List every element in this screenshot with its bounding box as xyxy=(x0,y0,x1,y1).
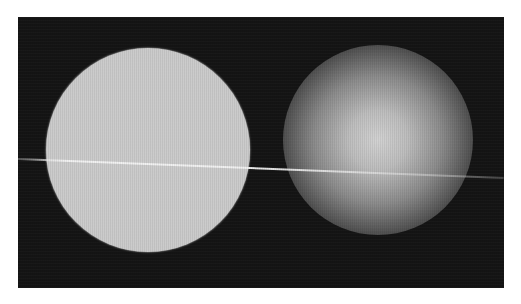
solid-disc xyxy=(46,48,250,252)
dark-frame xyxy=(18,17,504,288)
blurred-disc xyxy=(283,45,473,235)
